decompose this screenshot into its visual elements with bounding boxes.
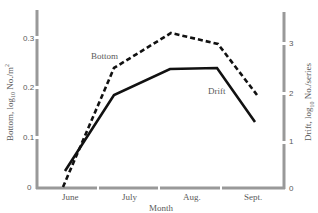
right-y-title-sub: 10 [309, 101, 315, 107]
right-y-title-text: Drift, log [303, 107, 313, 141]
left-y-axis-title: Bottom, log10 No./m2 [4, 52, 17, 152]
y-tick-right-2: 2 [289, 89, 293, 98]
left-y-title-tail: No./m [5, 67, 15, 92]
y-tick-left-0.1: 0.1 [23, 133, 34, 142]
line-chart [0, 0, 318, 213]
left-y-title-sup: 2 [4, 64, 10, 67]
bottom-series-label: Bottom [91, 51, 118, 61]
left-y-title-sub: 10 [10, 92, 16, 98]
x-tick-july: July [122, 192, 137, 202]
right-y-title-tail: No./series [303, 63, 313, 102]
y-tick-left-0: 0 [27, 183, 31, 192]
left-y-title-text: Bottom, log [5, 98, 15, 141]
y-tick-right-0: 0 [289, 184, 293, 193]
x-tick-sept: Sept. [244, 192, 262, 202]
x-tick-aug: Aug. [183, 192, 201, 202]
drift-series-line [65, 68, 255, 171]
y-tick-right-3: 3 [289, 39, 293, 48]
x-tick-june: June [62, 192, 79, 202]
y-tick-left-0.2: 0.2 [23, 83, 34, 92]
right-y-axis-title: Drift, log10 No./series [303, 47, 315, 157]
y-tick-left-0.3: 0.3 [23, 34, 34, 43]
drift-series-label: Drift [208, 86, 226, 96]
y-tick-right-1: 1 [289, 137, 293, 146]
x-axis-label: Month [149, 203, 173, 213]
